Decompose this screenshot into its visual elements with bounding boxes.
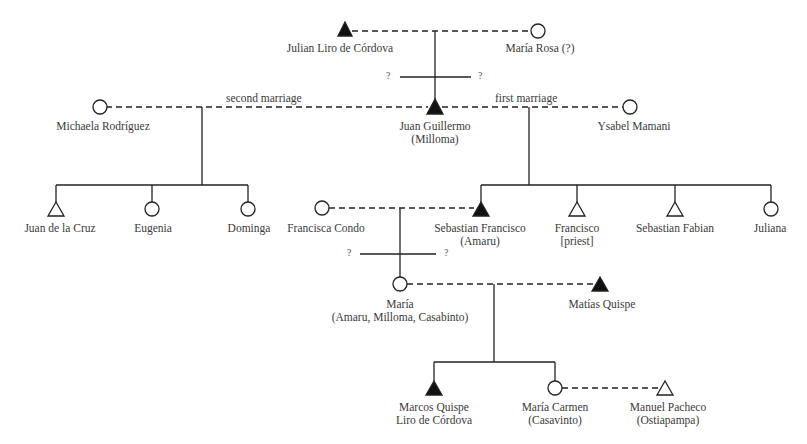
unknown-marker: ?: [444, 247, 448, 258]
circle-icon: [548, 381, 562, 395]
person-name: Marcos Quispe: [396, 401, 472, 414]
person-dominga: Dominga: [228, 222, 271, 235]
person-juliana: Juliana: [754, 222, 787, 235]
person-marcos: Marcos Quispe Liro de Córdova: [396, 401, 472, 427]
person-subtitle: (Milloma): [399, 133, 470, 146]
circle-icon: [315, 201, 329, 215]
person-manuel: Manuel Pacheco (Ostiapampa): [630, 401, 706, 427]
person-subtitle: (Amaru): [434, 235, 526, 248]
filled-triangle-icon: [338, 22, 352, 36]
person-maria: María (Amaru, Milloma, Casabinto): [332, 298, 469, 324]
second-marriage-label: second marriage: [226, 92, 302, 104]
unknown-marker: ?: [347, 247, 351, 258]
person-francisco: Francisco [priest]: [555, 222, 600, 248]
person-name: María Carmen: [522, 401, 589, 414]
person-matias: Matías Quispe: [569, 298, 636, 311]
open-triangle-icon: [48, 202, 64, 216]
unknown-marker: ?: [478, 70, 482, 81]
person-name: Ysabel Mamani: [597, 120, 670, 133]
person-subtitle: Liro de Córdova: [396, 414, 472, 427]
circle-icon: [393, 277, 407, 291]
person-maria-rosa: María Rosa (?): [506, 42, 575, 55]
person-eugenia: Eugenia: [134, 222, 172, 235]
open-triangle-icon: [657, 381, 673, 395]
person-julian: Julian Liro de Córdova: [287, 42, 393, 55]
person-juan-cruz: Juan de la Cruz: [24, 222, 95, 235]
circle-icon: [623, 100, 637, 114]
circle-icon: [241, 202, 255, 216]
person-subtitle: (Amaru, Milloma, Casabinto): [332, 311, 469, 324]
person-name: Francisca Condo: [287, 222, 365, 235]
filled-triangle-icon: [426, 381, 442, 395]
person-name: Sebastian Francisco: [434, 222, 526, 235]
filled-triangle-icon: [473, 202, 489, 216]
person-name: Matías Quispe: [569, 298, 636, 311]
person-name: Dominga: [228, 222, 271, 235]
person-subtitle: [priest]: [555, 235, 600, 248]
open-triangle-icon: [569, 202, 585, 216]
person-juan-guillermo: Juan Guillermo (Milloma): [399, 120, 470, 146]
circle-icon: [531, 24, 545, 38]
person-name: Juan Guillermo: [399, 120, 470, 133]
person-name: Michaela Rodríguez: [56, 120, 150, 133]
person-name: Sebastian Fabian: [636, 222, 714, 235]
person-francisca: Francisca Condo: [287, 222, 365, 235]
person-name: Francisco: [555, 222, 600, 235]
person-subtitle: (Ostiapampa): [630, 414, 706, 427]
open-triangle-icon: [667, 202, 683, 216]
person-name: Eugenia: [134, 222, 172, 235]
circle-icon: [93, 100, 107, 114]
person-name: María Rosa (?): [506, 42, 575, 55]
person-michaela: Michaela Rodríguez: [56, 120, 150, 133]
person-name: Juan de la Cruz: [24, 222, 95, 235]
first-marriage-label: first marriage: [495, 92, 557, 104]
person-name: Juliana: [754, 222, 787, 235]
person-sebastian-fabian: Sebastian Fabian: [636, 222, 714, 235]
person-sebastian-francisco: Sebastian Francisco (Amaru): [434, 222, 526, 248]
filled-triangle-icon: [592, 277, 608, 291]
circle-icon: [764, 202, 778, 216]
unknown-marker: ?: [386, 70, 390, 81]
person-name: Julian Liro de Córdova: [287, 42, 393, 55]
person-name: María: [332, 298, 469, 311]
person-ysabel: Ysabel Mamani: [597, 120, 670, 133]
person-subtitle: (Casavinto): [522, 414, 589, 427]
filled-triangle-icon: [427, 99, 443, 114]
person-name: Manuel Pacheco: [630, 401, 706, 414]
circle-icon: [145, 202, 159, 216]
person-maria-carmen: María Carmen (Casavinto): [522, 401, 589, 427]
